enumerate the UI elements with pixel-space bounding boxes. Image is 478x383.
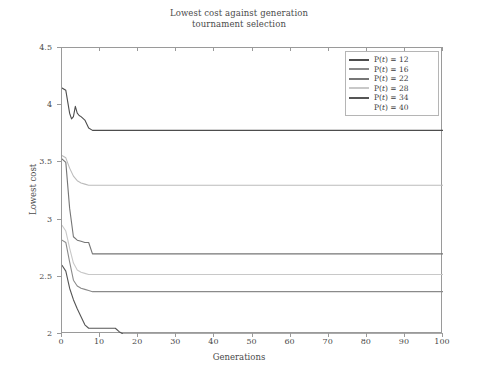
x-tick-label: 10 [84, 337, 114, 346]
x-tick-label: 40 [198, 337, 228, 346]
legend-label: P(t) = 34 [374, 93, 409, 102]
legend-item[interactable]: P(t) = 22 [349, 74, 434, 84]
x-tick-label: 90 [389, 337, 419, 346]
chart-title: Lowest cost against generation tournamen… [0, 8, 478, 30]
x-tick-mark [290, 333, 291, 337]
x-tick-mark-top [290, 47, 291, 51]
series-line [62, 225, 443, 274]
legend-item[interactable]: P(t) = 40 [349, 103, 434, 113]
y-tick-label: 4 [22, 100, 52, 109]
series-line [62, 240, 443, 291]
x-tick-mark-top [137, 47, 138, 51]
x-axis-label: Generations [0, 352, 478, 362]
x-tick-label: 0 [46, 337, 76, 346]
legend-swatch [349, 78, 369, 80]
x-tick-label: 60 [275, 337, 305, 346]
chart-title-line1: Lowest cost against generation [0, 8, 478, 19]
legend-label: P(t) = 12 [374, 55, 409, 64]
legend-label: P(t) = 16 [374, 65, 409, 74]
x-tick-mark-top [442, 47, 443, 51]
x-tick-mark [404, 333, 405, 337]
x-tick-mark [213, 333, 214, 337]
x-tick-label: 70 [313, 337, 343, 346]
legend-item[interactable]: P(t) = 12 [349, 55, 434, 65]
x-tick-mark [442, 333, 443, 337]
y-axis-label: Lowest cost [28, 164, 38, 215]
y-tick-label: 3 [22, 214, 52, 223]
x-tick-mark [99, 333, 100, 337]
x-tick-mark-top [175, 47, 176, 51]
x-tick-mark-top [366, 47, 367, 51]
y-tick-mark [57, 104, 61, 105]
legend-swatch [349, 68, 369, 70]
x-tick-label: 20 [122, 337, 152, 346]
y-tick-label: 4.5 [22, 43, 52, 52]
x-tick-mark-top [61, 47, 62, 51]
legend-item[interactable]: P(t) = 16 [349, 65, 434, 75]
x-tick-label: 30 [160, 337, 190, 346]
chart-legend: P(t) = 12P(t) = 16P(t) = 22P(t) = 28P(t)… [345, 51, 439, 116]
x-tick-mark [366, 333, 367, 337]
legend-swatch [349, 106, 369, 108]
legend-swatch [349, 87, 369, 89]
y-tick-label: 2.5 [22, 271, 52, 280]
chart-figure: Lowest cost against generation tournamen… [0, 0, 478, 383]
y-tick-mark [57, 219, 61, 220]
x-tick-mark-top [99, 47, 100, 51]
chart-title-line2: tournament selection [0, 19, 478, 30]
legend-label: P(t) = 28 [374, 84, 409, 93]
x-tick-mark-top [328, 47, 329, 51]
x-tick-label: 80 [351, 337, 381, 346]
legend-label: P(t) = 22 [374, 74, 409, 83]
legend-item[interactable]: P(t) = 28 [349, 84, 434, 94]
x-tick-mark [252, 333, 253, 337]
x-tick-mark [328, 333, 329, 337]
x-tick-label: 100 [427, 337, 457, 346]
x-tick-mark [61, 333, 62, 337]
x-tick-mark [175, 333, 176, 337]
legend-swatch [349, 97, 369, 99]
legend-swatch [349, 59, 369, 61]
y-tick-mark [57, 276, 61, 277]
series-line [62, 265, 443, 334]
series-line [62, 156, 443, 186]
x-tick-mark-top [252, 47, 253, 51]
x-tick-mark-top [404, 47, 405, 51]
series-line [62, 159, 443, 254]
legend-item[interactable]: P(t) = 34 [349, 93, 434, 103]
y-tick-label: 3.5 [22, 157, 52, 166]
x-tick-mark [137, 333, 138, 337]
x-tick-mark-top [213, 47, 214, 51]
legend-label: P(t) = 40 [374, 103, 409, 112]
y-tick-mark [57, 161, 61, 162]
x-tick-label: 50 [237, 337, 267, 346]
